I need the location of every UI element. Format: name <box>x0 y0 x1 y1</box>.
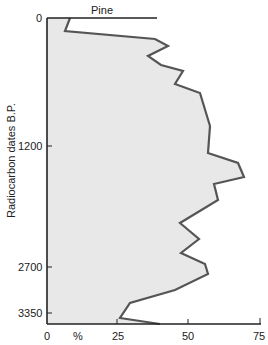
y-tick-label: 2700 <box>18 261 42 273</box>
x-tick-label: 25 <box>112 330 124 342</box>
pine-pollen-chart: Pine 0 1200 2700 3350 0 % 25 50 75 Radio… <box>0 0 268 345</box>
pine-area-fill <box>47 18 244 324</box>
y-tick-label: 0 <box>36 12 42 24</box>
y-tick-label: 3350 <box>18 307 42 319</box>
x-axis-label: % <box>73 330 83 342</box>
y-tick-label: 1200 <box>18 140 42 152</box>
chart-title: Pine <box>91 4 113 16</box>
x-tick-label: 50 <box>182 330 194 342</box>
x-tick-label: 0 <box>44 330 50 342</box>
x-tick-label: 75 <box>253 330 265 342</box>
y-axis-label: Radiocarbon dates B.P. <box>5 103 17 218</box>
